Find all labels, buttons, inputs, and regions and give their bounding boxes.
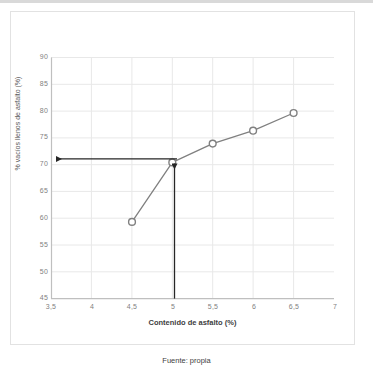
source-caption: Fuente: propia — [0, 356, 373, 365]
chart-canvas — [0, 0, 373, 345]
y-axis-title: % vacíos llenos de asfalto (%) — [14, 59, 21, 189]
grid-vertical — [91, 58, 293, 299]
chart-plot-area: 90 85 80 75 70 65 60 55 50 45 3,5 4 4,5 … — [0, 0, 373, 345]
grid-horizontal — [51, 58, 334, 272]
x-axis-title: Contenido de asfalto (%) — [51, 318, 334, 327]
